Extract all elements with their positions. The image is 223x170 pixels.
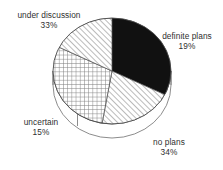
slice-label-no-plans: no plans 34%	[136, 137, 202, 157]
slice-label-uncertain: uncertain 15%	[8, 117, 74, 137]
slice-label-uncertain-name: uncertain	[24, 117, 59, 127]
pie-chart: under discussion 33% definite plans 19% …	[0, 0, 223, 170]
slice-label-under-discussion-name: under discussion	[17, 10, 80, 20]
slice-label-definite-plans-pct: 19%	[152, 41, 222, 51]
slice-label-no-plans-name: no plans	[153, 137, 185, 147]
slice-label-no-plans-pct: 34%	[136, 147, 202, 157]
slice-label-under-discussion: under discussion 33%	[3, 10, 95, 30]
slice-label-definite-plans: definite plans 19%	[152, 31, 222, 51]
slice-label-under-discussion-pct: 33%	[3, 20, 95, 30]
slice-label-uncertain-pct: 15%	[8, 127, 74, 137]
slice-label-definite-plans-name: definite plans	[162, 31, 212, 41]
